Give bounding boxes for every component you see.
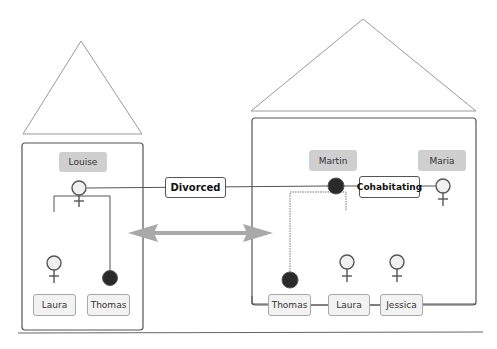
bidirectional-arrow-icon [128, 224, 273, 242]
parent-name-maria: Maria [418, 150, 466, 171]
male-symbol-icon [282, 272, 298, 288]
female-symbol-icon [436, 179, 450, 206]
parent-name-martin: Martin [309, 150, 357, 171]
left-house-roof [23, 41, 142, 134]
relationship-cohabitating: Cohabitating [359, 176, 420, 198]
female-symbol-icon [390, 255, 404, 282]
female-symbol-icon [340, 255, 354, 282]
female-symbol-icon [72, 181, 86, 207]
female-symbol-icon [47, 256, 61, 283]
left-children-bracket [54, 196, 110, 272]
right-house-roof [251, 19, 476, 111]
right-children-line [252, 296, 268, 304]
right-children-bracket [290, 192, 346, 272]
child-name-jessica: Jessica [380, 294, 423, 316]
bottom-divider [18, 332, 483, 333]
child-name-laura-right: Laura [328, 294, 370, 316]
child-name-thomas-right: Thomas [268, 294, 311, 316]
male-symbol-icon [103, 271, 118, 286]
child-name-thomas-left: Thomas [87, 294, 130, 316]
parent-name-louise: Louise [59, 152, 107, 172]
relationship-divorced: Divorced [165, 177, 226, 198]
male-symbol-icon [328, 178, 344, 194]
child-name-laura-left: Laura [33, 294, 76, 316]
